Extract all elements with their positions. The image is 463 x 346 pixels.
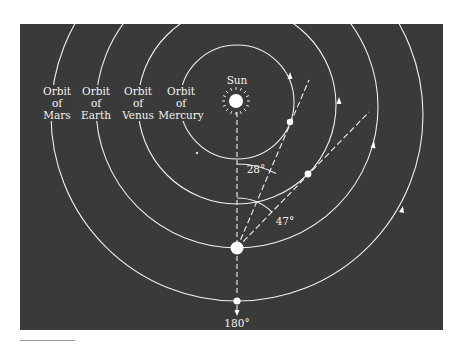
mercury-direction-arrow-icon — [288, 72, 293, 79]
mars-direction-arrow-icon — [399, 206, 404, 213]
angle-label-180: 180° — [224, 317, 249, 329]
footnote-rule — [20, 340, 75, 341]
small-dot — [196, 152, 198, 154]
angle-label-28: 28° — [247, 163, 266, 175]
orbit-label-venus: Orbit of Venus — [120, 85, 156, 121]
orbit-label-earth: Orbit of Earth — [79, 85, 113, 121]
angle-arc-47 — [237, 198, 272, 212]
venus-planet — [305, 171, 312, 178]
venus-direction-arrow-icon — [337, 97, 342, 104]
sun-label: Sun — [227, 74, 248, 86]
orbits-drawing — [0, 0, 463, 346]
mars-planet — [233, 297, 240, 304]
orbit-label-mercury: Orbit of Mercury — [156, 85, 206, 121]
angle-label-47: 47° — [276, 215, 295, 227]
earth-planet — [231, 242, 244, 255]
planetary-elongation-diagram: Sun Orbit of Mars Orbit of Earth Orbit o… — [0, 0, 463, 346]
sun-icon — [222, 87, 250, 115]
earth-venus-line — [237, 112, 369, 248]
mercury-planet — [287, 119, 293, 125]
orbit-label-mars: Orbit of Mars — [41, 85, 73, 121]
down-arrow-icon — [235, 310, 240, 316]
